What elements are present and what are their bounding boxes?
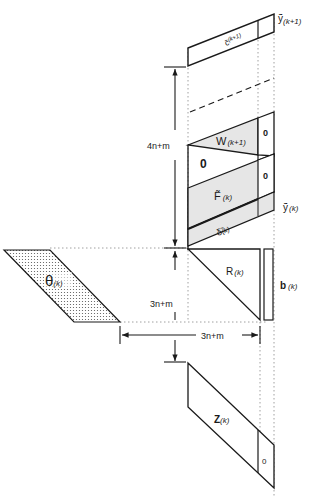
z-block: Z(k) 0 [188,363,274,488]
r-block: R(k) [188,249,260,320]
r-label: R(k) [226,266,244,277]
y-tilde-label: ỹ(k) [283,202,299,213]
c-tilde-block: c̃(k+1) [188,14,274,66]
zero-label: 0 [200,157,207,171]
dimension-4n-plus-m [164,67,186,248]
block-matrix-diagram: c̃(k+1) ỹ(k+1) W(k+1) 0 0 F̃(k) 0 δ̃(k [0,0,320,497]
z-label: Z(k) [214,414,230,425]
dimension-4n-plus-m-label: 4n+m [147,141,170,151]
w-zero-label: 0 [263,128,268,138]
b-block: b(k) [264,249,298,320]
y-tilde-next-label: ỹ(k+1) [278,13,302,26]
theta-block: θ(k) [4,250,120,322]
dimension-3n-plus-m-vertical-label: 3n+m [150,299,173,309]
w-block: W(k+1) 0 [188,112,274,156]
dashed-separator [190,78,274,112]
f-zero-label: 0 [263,171,268,181]
z-zero-label: 0 [262,457,267,466]
dimension-3n-plus-m-horizontal-label: 3n+m [201,331,224,341]
b-label: b(k) [280,280,298,291]
dimension-3n-plus-m-horizontal [120,326,260,344]
